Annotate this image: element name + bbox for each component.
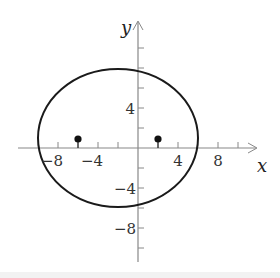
bottom-border — [0, 272, 280, 278]
y-tick-label-neg8: −8 — [114, 220, 136, 238]
coordinate-plane: −8 −4 4 8 4 −4 −8 x y — [0, 0, 280, 278]
focus-point-right — [154, 135, 161, 142]
y-tick-label-neg4: −4 — [114, 180, 136, 198]
x-tick-label-8: 8 — [213, 152, 223, 170]
y-tick-label-4: 4 — [125, 100, 135, 118]
x-tick-label-4: 4 — [173, 152, 183, 170]
x-tick-label-neg8: −8 — [41, 152, 63, 170]
x-ticks — [58, 142, 238, 148]
x-tick-label-neg4: −4 — [81, 152, 103, 170]
y-axis-title: y — [120, 17, 132, 38]
x-axis-title: x — [257, 155, 267, 176]
focus-point-left — [74, 135, 81, 142]
